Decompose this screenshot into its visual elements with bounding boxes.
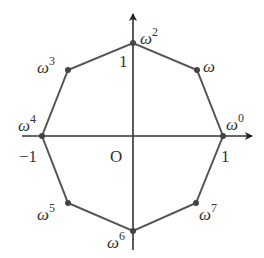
svg-text:4: 4 (30, 112, 36, 126)
svg-text:ω: ω (37, 205, 49, 224)
svg-text:ω: ω (37, 58, 49, 77)
vertex-label-w5: ω5 (37, 201, 55, 224)
roots-of-unity-diagram: O 1 −1 1 ω0 ω ω2 ω3 ω4 ω5 ω6 ω7 (0, 0, 264, 258)
svg-text:0: 0 (238, 111, 244, 125)
vertex-label-w7: ω7 (199, 201, 217, 224)
svg-text:ω: ω (199, 205, 211, 224)
svg-text:ω: ω (140, 29, 152, 48)
svg-text:ω: ω (226, 115, 238, 134)
svg-text:ω: ω (107, 233, 119, 252)
vertex-label-w2: ω2 (140, 25, 158, 48)
x-tick-neg1: −1 (19, 147, 37, 166)
svg-text:6: 6 (119, 229, 125, 243)
vertex-label-w3: ω3 (37, 54, 55, 77)
svg-text:ω: ω (18, 116, 30, 135)
vertex-label-w1: ω (203, 57, 215, 76)
svg-text:3: 3 (49, 54, 55, 68)
svg-text:7: 7 (211, 201, 217, 215)
origin-label: O (110, 147, 122, 166)
vertex-label-w6: ω6 (107, 229, 125, 252)
svg-text:5: 5 (49, 201, 55, 215)
svg-text:2: 2 (152, 25, 158, 39)
vertex-label-w4: ω4 (18, 112, 36, 135)
y-tick-1: 1 (119, 52, 128, 71)
x-tick-1: 1 (221, 147, 230, 166)
svg-text:ω: ω (203, 57, 215, 76)
vertex-label-w0: ω0 (226, 111, 244, 134)
